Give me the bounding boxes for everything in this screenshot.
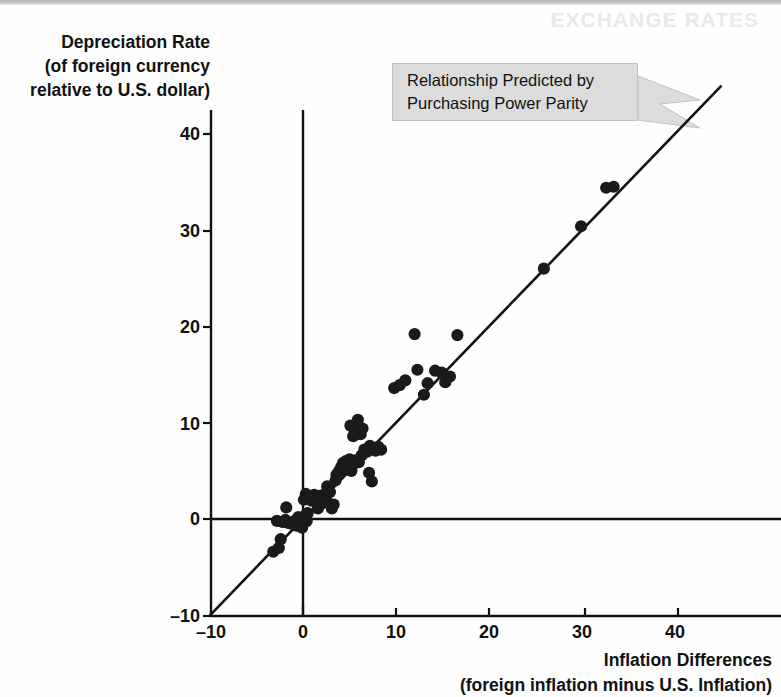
data-point	[375, 444, 387, 456]
data-point	[356, 422, 368, 434]
data-point	[409, 328, 421, 340]
data-point	[411, 364, 423, 376]
scatter-point-group	[267, 181, 620, 558]
data-point	[280, 501, 292, 513]
data-point	[538, 263, 550, 275]
data-point	[575, 220, 587, 232]
data-point	[324, 486, 336, 498]
data-point	[399, 374, 411, 386]
x-axis-ticks	[303, 605, 678, 616]
ppp-reference-line	[210, 86, 722, 616]
data-point	[444, 370, 456, 382]
data-point	[328, 498, 340, 510]
callout-pointer-tail	[638, 76, 700, 128]
data-point	[422, 377, 434, 389]
data-point	[418, 389, 430, 401]
data-point	[451, 329, 463, 341]
scatter-plot-canvas	[0, 0, 781, 697]
figure-page: EXCHANGE RATES Depreciation Rate (of for…	[0, 0, 781, 697]
callout-line-1: Relationship Predicted by	[407, 69, 637, 92]
data-point	[275, 533, 287, 545]
data-point	[608, 181, 620, 193]
ppp-callout-label: Relationship Predicted by Purchasing Pow…	[392, 63, 638, 121]
callout-line-2: Purchasing Power Parity	[407, 92, 637, 115]
data-point	[366, 475, 378, 487]
